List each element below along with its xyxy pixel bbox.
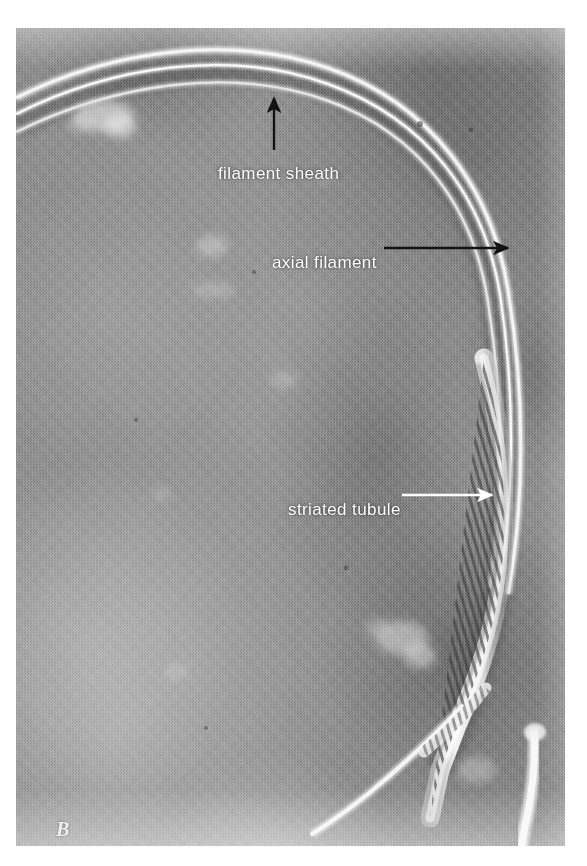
- annotation-label-filament-sheath: filament sheath: [218, 164, 339, 184]
- panel-letter-label: B: [56, 818, 69, 841]
- annotation-label-striated-tubule: striated tubule: [288, 500, 401, 520]
- annotation-layer: [16, 28, 565, 846]
- annotation-label-axial-filament: axial filament: [272, 253, 377, 273]
- figure-root: filament sheath axial filament striated …: [0, 0, 587, 866]
- micrograph-image: filament sheath axial filament striated …: [16, 28, 565, 846]
